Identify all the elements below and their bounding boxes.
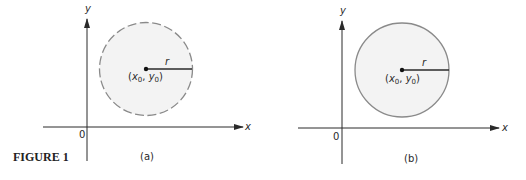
figure-1: FIGURE 1 r (x0, y0) x y 0 (a) r (x0, y0)… <box>0 0 526 180</box>
x-axis-label: x <box>501 122 508 133</box>
center-point <box>400 68 404 72</box>
figure-caption: FIGURE 1 <box>13 150 69 164</box>
origin-label: 0 <box>333 131 339 142</box>
x-axis-label: x <box>244 121 251 132</box>
y-axis-label: y <box>84 3 92 14</box>
panel-b: r (x0, y0) x y 0 (b) <box>298 5 508 164</box>
figure-canvas: FIGURE 1 r (x0, y0) x y 0 (a) r (x0, y0)… <box>0 0 526 180</box>
origin-label: 0 <box>79 129 85 140</box>
panel-a: r (x0, y0) x y 0 (a) <box>43 3 251 162</box>
panel-label: (a) <box>140 151 154 162</box>
panel-label: (b) <box>404 153 418 164</box>
y-axis-label: y <box>339 5 347 16</box>
